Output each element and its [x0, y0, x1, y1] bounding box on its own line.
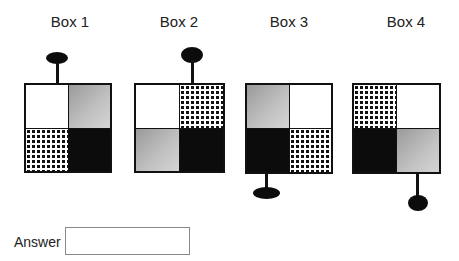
box-3-quadrant-top-right [290, 85, 332, 128]
box-2 [134, 83, 225, 173]
box-1-quadrant-top-right [69, 85, 111, 128]
box-4-quadrant-bottom-right [397, 129, 439, 172]
box-1-quadrant-bottom-left [26, 129, 68, 172]
box-3-quadrant-bottom-right [290, 129, 332, 172]
box-2-title: Box 2 [139, 13, 219, 30]
box-2-quadrant-bottom-left [136, 129, 179, 172]
box-3-quadrant-top-left [247, 85, 289, 128]
box-1-title: Box 1 [30, 13, 110, 30]
box-1-quadrant-top-left [26, 85, 68, 128]
box-4-quadrant-top-right [397, 85, 439, 128]
box-4 [352, 83, 441, 174]
box-2-quadrant-top-left [136, 85, 179, 128]
box-4-quadrant-bottom-left [354, 129, 396, 172]
box-4-quadrant-top-left [354, 85, 396, 128]
box-3 [245, 83, 333, 174]
answer-input[interactable] [65, 227, 190, 255]
box-2-quadrant-bottom-right [180, 129, 223, 172]
box-3-title: Box 3 [249, 13, 329, 30]
box-4-title: Box 4 [366, 13, 446, 30]
answer-label: Answer [14, 234, 61, 250]
box-2-quadrant-top-right [180, 85, 223, 128]
box-3-quadrant-bottom-left [247, 129, 289, 172]
box-1-quadrant-bottom-right [69, 129, 111, 172]
box-1 [24, 83, 112, 173]
